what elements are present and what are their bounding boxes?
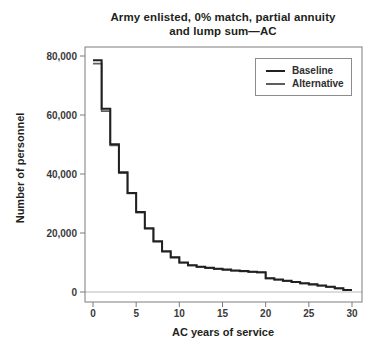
figure-panel: Army enlisted, 0% match, partial annuity… (0, 0, 385, 364)
baseline-line-swatch (266, 70, 285, 72)
x-tick-label: 0 (90, 308, 96, 319)
chart-canvas: 020,00040,00060,00080,000051015202530 (0, 0, 385, 364)
y-tick-label: 60,000 (46, 110, 77, 121)
y-tick-label: 20,000 (46, 228, 77, 239)
x-axis-title: AC years of service (61, 326, 385, 338)
x-tick-label: 15 (217, 308, 229, 319)
legend-item-alternative: Alternative (266, 77, 351, 90)
legend-label-baseline: Baseline (292, 65, 333, 76)
x-tick-label: 20 (260, 308, 272, 319)
legend-box: Baseline Alternative (255, 58, 352, 96)
x-tick-label: 10 (174, 308, 186, 319)
legend-label-alternative: Alternative (292, 78, 344, 89)
alternative-step-line (93, 64, 352, 291)
x-tick-label: 5 (133, 308, 139, 319)
x-tick-label: 25 (303, 308, 315, 319)
legend-item-baseline: Baseline (266, 64, 351, 77)
x-tick-label: 30 (346, 308, 358, 319)
y-tick-label: 0 (71, 287, 77, 298)
alternative-line-swatch (266, 83, 285, 85)
y-tick-label: 80,000 (46, 51, 77, 62)
y-tick-label: 40,000 (46, 169, 77, 180)
